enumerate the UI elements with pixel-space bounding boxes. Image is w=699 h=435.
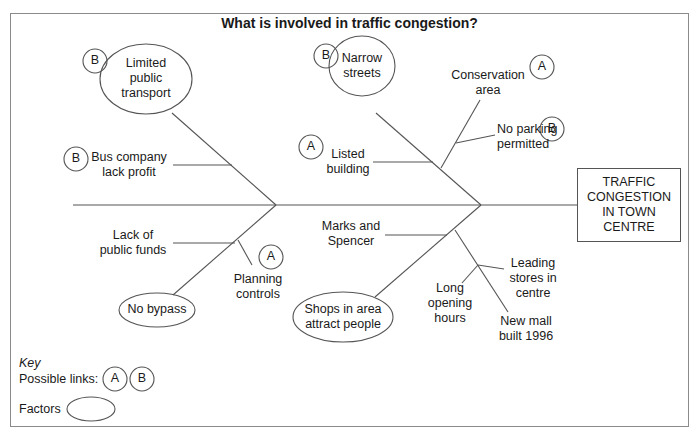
effect-line: TRAFFIC [587, 175, 671, 190]
key-title: Key [19, 356, 41, 371]
cause-leading-stores: Leading stores in centre [505, 256, 561, 301]
cause-conservation-area: Conservation area [448, 68, 528, 98]
factor-no-bypass: No bypass [117, 302, 197, 317]
key-factors-label: Factors [19, 402, 61, 417]
cause-bus-company: Bus company lack profit [87, 150, 171, 180]
effect-line: IN TOWN [587, 205, 671, 220]
branch-no-parking [456, 135, 495, 143]
cause-lack-public-funds: Lack of public funds [95, 228, 171, 258]
branch-conservation-area [441, 100, 480, 168]
diagram-title: What is involved in traffic congestion? [0, 15, 699, 31]
cause-listed-building: Listed building [325, 147, 371, 177]
effect-line: CONGESTION [587, 190, 671, 205]
key-factor-ellipse [67, 397, 115, 421]
link-label-a: A [299, 139, 323, 154]
cause-long-opening-hours: Long opening hours [423, 281, 477, 326]
factor-limited-public-transport: Limited public transport [106, 56, 186, 101]
cause-planning-controls: Planning controls [226, 272, 290, 302]
branch-planning-controls [238, 240, 252, 265]
branch-leading-stores [478, 265, 504, 269]
effect-line: CENTRE [587, 220, 671, 235]
key-links-label: Possible links: [19, 372, 98, 387]
key-link-b: B [130, 371, 154, 386]
link-label-a: A [259, 249, 283, 264]
cause-new-mall: New mall built 1996 [491, 314, 561, 344]
link-label-a: A [530, 59, 554, 74]
bone-upper-left [172, 113, 276, 205]
cause-marks-spencer: Marks and Spencer [318, 219, 384, 249]
link-label-b: B [314, 48, 338, 63]
key-link-a: A [103, 371, 127, 386]
link-label-b: B [540, 121, 564, 136]
factor-shops-attract-people: Shops in area attract people [293, 302, 393, 332]
link-label-b: B [64, 151, 88, 166]
cause-no-parking: No parking permitted [497, 122, 539, 152]
link-label-b: B [83, 53, 107, 68]
effect-box: TRAFFIC CONGESTION IN TOWN CENTRE [577, 168, 681, 242]
